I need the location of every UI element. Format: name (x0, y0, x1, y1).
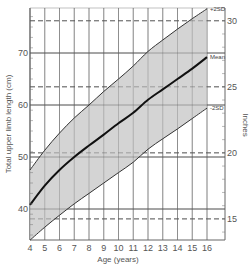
series-label-minus2sd: -2SD (210, 105, 224, 111)
x-tick-label: 13 (158, 243, 168, 253)
x-tick-label: 14 (172, 243, 182, 253)
series-label-plus2sd: +2SD (210, 6, 226, 12)
y2-tick-label: 25 (227, 82, 237, 92)
y2-tick-label: 20 (227, 148, 237, 158)
series-label-mean: Mean (210, 54, 225, 60)
y-tick-label: 70 (18, 48, 28, 58)
growth-chart: 456789101112131415164050607015202530 Age… (0, 0, 251, 268)
x-tick-label: 7 (72, 243, 77, 253)
x-tick-label: 15 (187, 243, 197, 253)
x-tick-label: 11 (129, 243, 138, 253)
x-tick-label: 4 (27, 243, 32, 253)
y2-tick-label: 30 (227, 16, 237, 26)
y-tick-label: 50 (18, 152, 28, 162)
x-axis-label: Age (years) (97, 255, 139, 264)
x-tick-label: 9 (101, 243, 106, 253)
y-tick-label: 40 (18, 204, 28, 214)
x-tick-label: 16 (202, 243, 212, 253)
y-axis-label: Total upper limb length (cm) (4, 74, 13, 173)
x-tick-label: 5 (42, 243, 47, 253)
x-tick-label: 8 (86, 243, 91, 253)
x-tick-label: 10 (113, 243, 123, 253)
y2-axis-label: Inches (241, 113, 250, 137)
y-tick-label: 60 (18, 100, 28, 110)
x-tick-label: 12 (143, 243, 153, 253)
x-tick-label: 6 (57, 243, 62, 253)
y2-tick-label: 15 (227, 214, 237, 224)
